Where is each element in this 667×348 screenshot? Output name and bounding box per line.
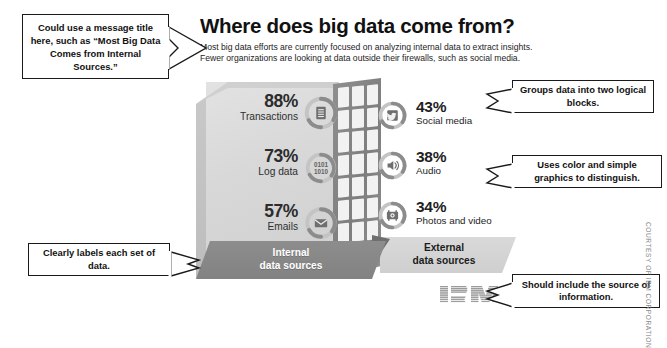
external-stat-label: Photos and video (416, 215, 516, 227)
svg-text:1010: 1010 (314, 168, 328, 175)
internal-stat-text: 88% Transactions (206, 92, 298, 123)
callout-color-graphics-text: Uses color and simple graphics to distin… (513, 159, 661, 184)
subtitle-line-1: Most big data efforts are currently focu… (200, 42, 600, 53)
callout-source-text: Should include the source of information… (513, 279, 659, 304)
callout-labels-text: Clearly labels each set of data. (29, 247, 169, 272)
external-stat-percent: 34% (416, 198, 516, 215)
callout-groups-text: Groups data into two logical blocks. (513, 84, 653, 109)
document-icon (302, 94, 340, 132)
external-stat-label: Social media (416, 115, 516, 127)
internal-stat-label: Log data (206, 166, 298, 178)
internal-stat-text: 57% Emails (206, 202, 298, 233)
bird-icon (376, 99, 409, 132)
camera-icon (376, 199, 409, 232)
external-stat-photos-video: 34% Photos and video (376, 198, 516, 240)
internal-band-line-1: Internal (196, 246, 386, 259)
internal-stat-label: Transactions (206, 111, 298, 123)
internal-stat-label: Emails (206, 221, 298, 233)
callout-title-suggestion-tail (168, 26, 208, 70)
callout-source-tail (486, 282, 514, 308)
callout-color-graphics: Uses color and simple graphics to distin… (512, 155, 662, 188)
window-cell (352, 108, 363, 129)
clipped-top-strip (330, 0, 650, 6)
internal-data-sources-band: Internal data sources (196, 241, 386, 279)
internal-stat-percent: 88% (206, 92, 298, 111)
internal-stat-log-data: 73% Log data 0101 1010 (200, 147, 340, 195)
internal-stat-percent: 57% (206, 202, 298, 221)
callout-labels: Clearly labels each set of data. (28, 243, 170, 276)
external-data-sources-band: External data sources (380, 237, 516, 273)
internal-stats-list: 88% Transactions 73% Log data (200, 92, 340, 257)
callout-title-suggestion: Could use a message title here, such as … (22, 14, 169, 79)
window-cell (352, 131, 363, 152)
window-cell (352, 153, 363, 174)
window-cell (352, 221, 363, 242)
window-cell (352, 176, 363, 197)
subtitle-line-2: Fewer organizations are looking at data … (200, 53, 600, 64)
external-band-label: External data sources (380, 241, 508, 267)
internal-stat-text: 73% Log data (206, 147, 298, 178)
window-cell (352, 199, 363, 220)
envelope-icon (302, 204, 340, 242)
external-band-line-2: data sources (380, 254, 508, 267)
window-cell (352, 86, 363, 107)
callout-title-suggestion-text: Could use a message title here, such as … (23, 21, 168, 73)
courtesy-credit: COURTESY OF IBM CORPORATION (645, 222, 652, 348)
callout-source: Should include the source of information… (512, 274, 660, 308)
external-band-line-1: External (380, 241, 508, 254)
page-title: Where does big data come from? (200, 14, 630, 38)
internal-band-line-2: data sources (196, 259, 386, 272)
callout-groups-tail (486, 88, 514, 114)
internal-stat-percent: 73% (206, 147, 298, 166)
callout-color-graphics-tail (486, 163, 514, 189)
callout-groups: Groups data into two logical blocks. (512, 80, 654, 113)
callout-labels-tail (170, 251, 200, 277)
internal-stat-transactions: 88% Transactions (200, 92, 340, 140)
speaker-icon (376, 149, 409, 182)
internal-band-label: Internal data sources (196, 246, 386, 272)
page-subtitle: Most big data efforts are currently focu… (200, 42, 600, 64)
binary-icon: 0101 1010 (302, 149, 340, 187)
